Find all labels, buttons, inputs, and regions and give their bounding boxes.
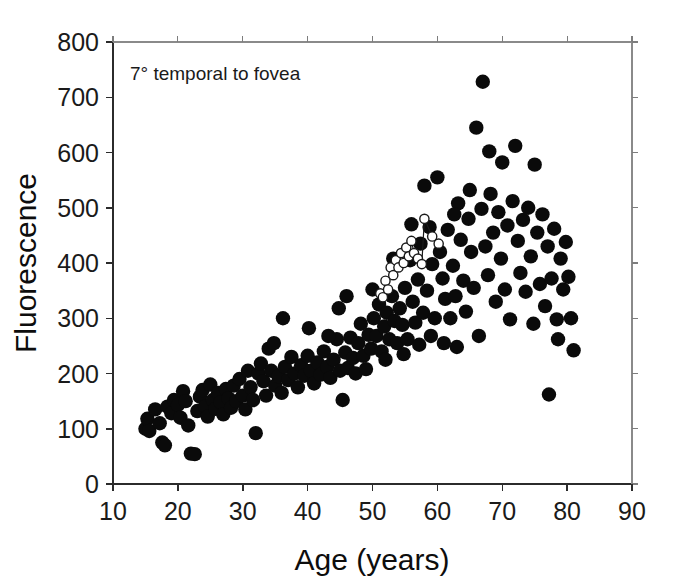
data-point-filled [302, 321, 316, 335]
data-point-filled [246, 393, 260, 407]
plot-frame [113, 42, 632, 484]
data-point-filled [482, 144, 496, 158]
data-point-filled [513, 266, 527, 280]
x-axis-label: Age (years) [294, 543, 449, 576]
data-point-filled [454, 233, 468, 247]
data-point-filled [335, 393, 349, 407]
data-point-filled [393, 301, 407, 315]
data-point-open [417, 260, 426, 269]
data-point-filled [527, 157, 541, 171]
x-tick-label: 60 [423, 497, 451, 525]
y-tick-label: 600 [57, 139, 99, 167]
data-point-filled [339, 289, 353, 303]
data-point-filled [447, 207, 461, 221]
data-point-filled [404, 217, 418, 231]
data-point-filled [550, 312, 564, 326]
x-tick-label: 90 [618, 497, 646, 525]
data-point-filled [566, 343, 580, 357]
data-point-filled [443, 311, 457, 325]
data-point-filled [508, 139, 522, 153]
data-point-filled [469, 120, 483, 134]
data-point-open [383, 285, 392, 294]
y-tick-label: 0 [85, 470, 99, 498]
x-tick-label: 70 [488, 497, 516, 525]
y-axis-label: Fluorescence [9, 173, 42, 353]
data-point-filled [267, 336, 281, 350]
data-point-filled [158, 438, 172, 452]
data-point-filled [476, 75, 490, 89]
data-point-filled [559, 235, 573, 249]
data-point-filled [478, 239, 492, 253]
data-point-filled [489, 294, 503, 308]
data-point-filled [181, 418, 195, 432]
data-point-filled [544, 271, 558, 285]
x-tick-label: 20 [164, 497, 192, 525]
data-point-open [434, 239, 443, 248]
data-point-filled [556, 282, 570, 296]
data-point-filled [538, 299, 552, 313]
data-point-filled [417, 178, 431, 192]
x-tick-label: 10 [99, 497, 127, 525]
data-point-filled [518, 285, 532, 299]
data-point-filled [425, 257, 439, 271]
data-point-filled [500, 218, 514, 232]
data-point-filled [467, 281, 481, 295]
data-point-filled [553, 251, 567, 265]
data-point-filled [276, 311, 290, 325]
data-point-filled [378, 352, 392, 366]
data-points-layer [138, 75, 581, 462]
data-point-filled [542, 387, 556, 401]
y-tick-label: 400 [57, 249, 99, 277]
data-point-filled [332, 301, 346, 315]
data-point-filled [495, 155, 509, 169]
plot-canvas: 102030405060708090 010020030040050060070… [0, 0, 673, 588]
data-point-filled [411, 272, 425, 286]
data-point-filled [540, 239, 554, 253]
data-point-filled [243, 380, 257, 394]
y-tick-label: 800 [57, 28, 99, 56]
x-tick-label: 50 [359, 497, 387, 525]
data-point-filled [441, 223, 455, 237]
data-point-filled [463, 183, 477, 197]
secondary-frame [113, 42, 632, 484]
data-point-open [420, 214, 429, 223]
data-point-filled [435, 271, 449, 285]
data-point-filled [428, 311, 442, 325]
data-point-filled [483, 187, 497, 201]
data-point-filled [446, 259, 460, 273]
data-point-filled [321, 329, 335, 343]
data-point-filled [494, 251, 508, 265]
data-point-filled [524, 249, 538, 263]
data-point-filled [491, 205, 505, 219]
series-population [138, 75, 581, 462]
data-point-filled [412, 338, 426, 352]
data-point-filled [564, 311, 578, 325]
data-point-filled [511, 234, 525, 248]
data-point-filled [481, 268, 495, 282]
data-point-filled [437, 336, 451, 350]
data-point-filled [472, 329, 486, 343]
y-tick-label: 300 [57, 304, 99, 332]
data-point-filled [420, 283, 434, 297]
data-point-filled [395, 318, 409, 332]
data-point-filled [503, 312, 517, 326]
y-tick-label: 100 [57, 415, 99, 443]
data-point-filled [551, 332, 565, 346]
data-point-filled [448, 289, 462, 303]
data-point-filled [486, 225, 500, 239]
primary-axes [113, 42, 632, 484]
data-point-filled [359, 362, 373, 376]
data-point-filled [547, 222, 561, 236]
data-point-filled [459, 304, 473, 318]
data-point-filled [474, 202, 488, 216]
scatter-plot-figure: 102030405060708090 010020030040050060070… [0, 0, 673, 588]
data-point-filled [398, 281, 412, 295]
x-tick-label: 30 [229, 497, 257, 525]
data-point-filled [274, 386, 288, 400]
data-point-filled [153, 416, 167, 430]
data-point-filled [505, 194, 519, 208]
data-point-filled [464, 245, 478, 259]
data-point-filled [188, 447, 202, 461]
data-point-filled [535, 207, 549, 221]
data-point-filled [148, 402, 162, 416]
